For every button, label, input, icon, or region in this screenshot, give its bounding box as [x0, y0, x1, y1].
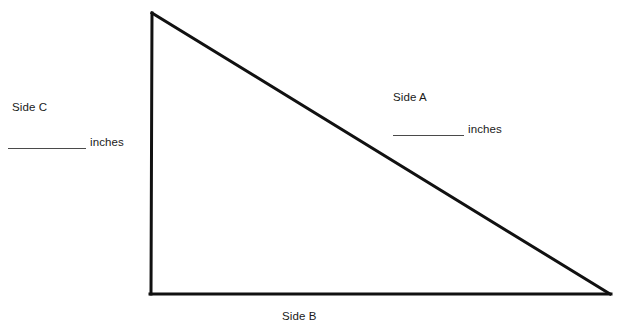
triangle-figure: [0, 0, 622, 336]
side-b-label: Side B: [282, 309, 316, 323]
side-c-answer-blank[interactable]: [8, 137, 86, 149]
side-c-label: Side C: [12, 100, 47, 114]
worksheet-page: Side C inches Side A inches Side B: [0, 0, 622, 336]
triangle-side-a-line: [152, 13, 610, 294]
side-a-answer-row: inches: [393, 123, 502, 136]
side-c-answer-row: inches: [8, 136, 124, 149]
side-c-unit-label: inches: [90, 136, 124, 149]
side-a-answer-blank[interactable]: [393, 124, 464, 136]
side-a-unit-label: inches: [468, 123, 502, 136]
triangle-side-c-line: [151, 13, 152, 294]
side-a-label: Side A: [393, 90, 427, 104]
